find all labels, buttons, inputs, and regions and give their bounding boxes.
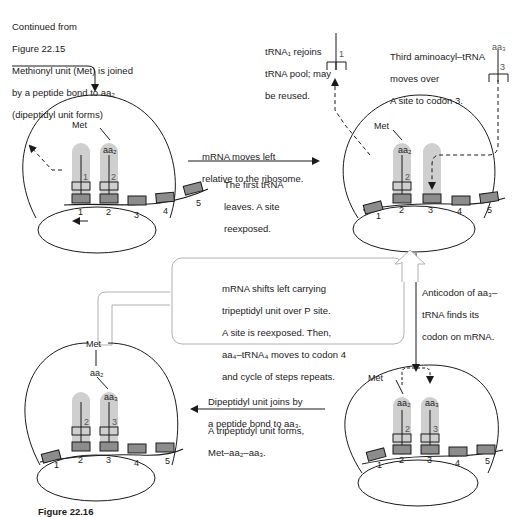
intro-note-line1: Continued from xyxy=(12,21,133,32)
step3-met-label: Met xyxy=(368,373,384,383)
step1-codon-4: 4 xyxy=(163,206,168,216)
step2-trna2-number: 2 xyxy=(405,172,410,182)
step3-codon-5: 5 xyxy=(485,456,490,466)
bottom-arrow-caption-below: A tripeptidyl unit forms, Met–aa₂–aa₃. xyxy=(208,414,304,469)
step4-aa2-label: aa₂ xyxy=(90,368,104,378)
right-arrow-line1: Anticodon of aa₃– xyxy=(422,287,497,298)
third-aminoacyl-note: Third aminoacyl–tRNA moves over A site t… xyxy=(390,40,485,117)
step3-codon-4: 4 xyxy=(455,458,460,468)
top-arrow-caption-below: The first tRNA leaves. A site reexposed. xyxy=(224,168,284,245)
intro-note: Continued from Figure 22.15 Methionyl un… xyxy=(12,10,133,131)
step4-aa3-label: aa₃ xyxy=(104,392,118,402)
step3-trna3-number: 3 xyxy=(433,424,438,434)
bottom-arrow-below-line1: A tripeptidyl unit forms, xyxy=(208,425,304,436)
right-arrow-caption: Anticodon of aa₃– tRNA finds its codon o… xyxy=(422,276,497,353)
step3-codon-3: 3 xyxy=(427,455,432,465)
step4-codon-4: 4 xyxy=(134,458,139,468)
step1-codon-2: 2 xyxy=(106,207,111,217)
center-box-line5: and cycle of steps repeats. xyxy=(222,371,346,382)
trna-pool-line2: tRNA pool; may xyxy=(265,68,331,79)
step1-trna1-number: 1 xyxy=(83,172,88,182)
step2-met-label: Met xyxy=(374,121,390,131)
step1-codon-5: 5 xyxy=(196,198,201,208)
step4-codon-5: 5 xyxy=(165,456,170,466)
center-box-line1: mRNA shifts left carrying xyxy=(222,283,346,294)
top-arrow-above-line1: mRNA moves left xyxy=(202,151,303,162)
step3-codon-1: 1 xyxy=(377,460,382,470)
incoming-trna3-number: 3 xyxy=(500,62,505,72)
trna-pool-line3: be reused. xyxy=(265,90,331,101)
intro-note-line4: by a peptide bond to aa₂ xyxy=(12,87,133,98)
center-box-text: mRNA shifts left carrying tripeptidyl un… xyxy=(222,272,346,393)
step4-met-label: Met xyxy=(86,339,102,349)
step3-trna2-number: 2 xyxy=(405,424,410,434)
center-box-line4: aa₄–tRNA₄ moves to codon 4 xyxy=(222,349,346,360)
step1-codon-3: 3 xyxy=(134,210,139,220)
bottom-arrow-above-line1: Dipeptidyl unit joins by xyxy=(208,396,303,407)
right-arrow-line3: codon on mRNA. xyxy=(422,331,497,342)
top-arrow-below-line1: The first tRNA xyxy=(224,179,284,190)
step1-aa2-label: aa₂ xyxy=(103,145,117,155)
ribosome-step4 xyxy=(25,343,183,501)
trna-pool-note: tRNA₁ rejoins tRNA pool; may be reused. xyxy=(265,35,331,112)
ribosome-step3 xyxy=(345,365,503,506)
step4-codon-2: 2 xyxy=(78,455,83,465)
step2-aa2-label: aa₂ xyxy=(398,145,412,155)
incoming-aa3-label: aa₃ xyxy=(492,42,506,52)
step2-codon-2: 2 xyxy=(399,205,404,215)
trna-pool-line1: tRNA₁ rejoins xyxy=(265,46,331,57)
incoming-trna3 xyxy=(489,50,508,82)
step2-codon-5: 5 xyxy=(487,205,492,215)
step2-codon-1: 1 xyxy=(376,211,381,221)
step1-codon-1: 1 xyxy=(78,207,83,217)
step4-codon-1: 1 xyxy=(54,460,59,470)
bottom-arrow-below-line2: Met–aa₂–aa₃. xyxy=(208,447,304,458)
step4-codon-3: 3 xyxy=(106,455,111,465)
intro-note-line3: Methionyl unit (Met) is joined xyxy=(12,65,133,76)
center-box-line2: tripeptidyl unit over P site. xyxy=(222,305,346,316)
right-arrow-line2: tRNA finds its xyxy=(422,309,497,320)
third-aminoacyl-line3: A site to codon 3. xyxy=(390,95,485,106)
step4-trna3-number: 3 xyxy=(112,417,117,427)
step1-trna2-number: 2 xyxy=(111,172,116,182)
step2-codon-4: 4 xyxy=(457,206,462,216)
center-box-line3: A site is reexposed. Then, xyxy=(222,327,346,338)
step3-aa2-label: aa₂ xyxy=(397,398,411,408)
intro-note-line2: Figure 22.15 xyxy=(12,43,133,54)
step4-trna2-number: 2 xyxy=(84,417,89,427)
third-aminoacyl-line2: moves over xyxy=(390,73,485,84)
figure-caption: Figure 22.16 xyxy=(38,506,93,517)
free-trna1-number: 1 xyxy=(339,49,344,59)
top-arrow-below-line2: leaves. A site xyxy=(224,201,284,212)
step3-aa3-label: aa₃ xyxy=(425,398,439,408)
top-arrow-below-line3: reexposed. xyxy=(224,223,284,234)
step3-codon-2: 2 xyxy=(399,455,404,465)
third-aminoacyl-line1: Third aminoacyl–tRNA xyxy=(390,51,485,62)
intro-note-line5: (dipeptidyl unit forms) xyxy=(12,109,133,120)
step2-codon-3: 3 xyxy=(428,205,433,215)
